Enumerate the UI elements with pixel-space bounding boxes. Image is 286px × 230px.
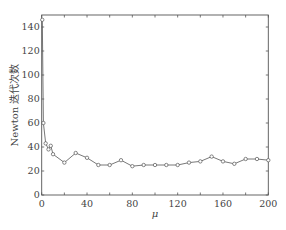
x-tick-label: 160 xyxy=(214,198,232,209)
data-point xyxy=(187,161,190,164)
y-tick-label: 80 xyxy=(28,93,40,104)
data-point xyxy=(41,18,44,21)
y-tick-label: 0 xyxy=(34,189,40,200)
data-point xyxy=(74,151,77,154)
data-point xyxy=(131,165,134,168)
data-point xyxy=(44,142,47,145)
data-point xyxy=(42,121,45,124)
data-point xyxy=(210,155,213,158)
data-point xyxy=(51,153,54,156)
data-point xyxy=(142,163,145,166)
y-tick-label: 60 xyxy=(28,117,40,128)
data-point xyxy=(85,156,88,159)
data-point xyxy=(233,162,236,165)
data-point xyxy=(176,163,179,166)
y-tick-label: 120 xyxy=(22,45,40,56)
y-tick-label: 140 xyxy=(22,21,40,32)
data-point xyxy=(255,157,258,160)
y-tick-label: 20 xyxy=(28,165,40,176)
y-axis-title: Newton 迭代次数 xyxy=(8,64,20,147)
y-tick-label: 40 xyxy=(28,141,40,152)
data-point xyxy=(97,163,100,166)
y-tick-labels: 020406080100120140 xyxy=(22,21,40,200)
x-axis-title: μ xyxy=(152,208,159,219)
data-point xyxy=(199,160,202,163)
data-point xyxy=(267,159,270,162)
plot-frame xyxy=(42,15,269,195)
x-tick-label: 200 xyxy=(259,198,277,209)
data-point xyxy=(165,163,168,166)
data-point xyxy=(244,157,247,160)
data-point xyxy=(153,163,156,166)
x-tick-label: 40 xyxy=(81,198,93,209)
data-point xyxy=(119,159,122,162)
line-chart: 04080120160200 020406080100120140 μ Newt… xyxy=(0,0,286,230)
data-point xyxy=(108,163,111,166)
data-point xyxy=(49,144,52,147)
data-point xyxy=(63,161,66,164)
data-point xyxy=(221,160,224,163)
data-point xyxy=(47,148,50,151)
x-tick-label: 80 xyxy=(126,198,138,209)
y-tick-label: 100 xyxy=(22,69,40,80)
x-tick-label: 120 xyxy=(169,198,187,209)
